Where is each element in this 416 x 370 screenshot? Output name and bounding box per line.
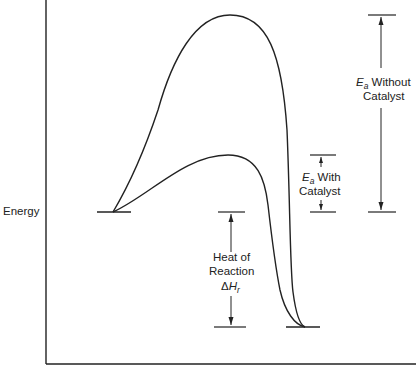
arrow-up-icon [319,157,323,163]
arrow-up-icon [379,17,384,25]
ea-with-label: Ea With [302,171,341,186]
heat-label-line1: Heat of [213,251,251,263]
arrow-down-icon [379,202,384,210]
energy-diagram: Energy Ea Without Catalyst Ea With Catal… [0,0,416,370]
arrow-down-icon [319,204,323,210]
heat-label-line2: Reaction [209,265,254,277]
ea-without-label-line2: Catalyst [363,90,405,102]
arrow-down-icon [229,317,234,325]
arrow-up-icon [229,214,234,222]
curve-with-catalyst [113,155,305,327]
curve-without-catalyst [113,15,305,327]
y-axis-label: Energy [3,205,40,217]
ea-without-bracket [368,15,396,212]
ea-without-label: Ea Without [356,76,411,91]
ea-with-label-line2: Catalyst [299,185,341,197]
heat-label-line3: ΔHr [221,280,241,295]
